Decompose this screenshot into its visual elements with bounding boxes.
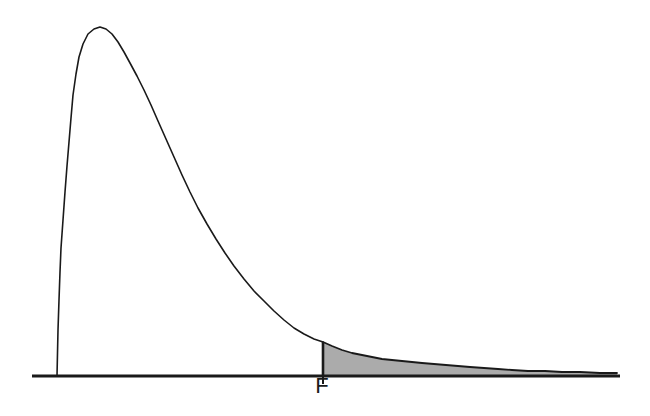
distribution-plot: F bbox=[0, 0, 650, 416]
f-distribution-figure: F bbox=[0, 0, 650, 416]
critical-value-label: F bbox=[315, 373, 328, 398]
